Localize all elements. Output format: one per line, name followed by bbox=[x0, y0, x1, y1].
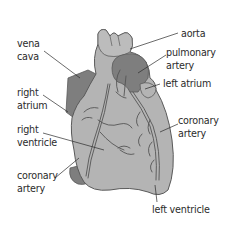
label-coronary-artery-left: coronary artery bbox=[17, 169, 58, 195]
label-left-atrium: left atrium bbox=[163, 77, 211, 90]
label-left-ventricle: left ventricle bbox=[152, 203, 210, 216]
label-line: vena bbox=[17, 37, 40, 50]
label-line: pulmonary bbox=[166, 46, 216, 59]
label-line: aorta bbox=[181, 27, 205, 40]
aorta-shape bbox=[98, 30, 133, 57]
label-line: cava bbox=[17, 50, 40, 63]
label-line: artery bbox=[166, 59, 216, 72]
label-right-ventricle: right ventricle bbox=[17, 123, 57, 149]
label-coronary-artery-right: coronary artery bbox=[178, 114, 219, 140]
label-aorta: aorta bbox=[181, 27, 205, 40]
label-line: artery bbox=[178, 127, 219, 140]
label-line: right bbox=[17, 123, 57, 136]
label-pulmonary-artery: pulmonary artery bbox=[166, 46, 216, 72]
label-line: ventricle bbox=[17, 136, 57, 149]
label-line: right bbox=[17, 86, 47, 99]
label-right-atrium: right atrium bbox=[17, 86, 47, 112]
label-line: artery bbox=[17, 182, 58, 195]
label-line: coronary bbox=[178, 114, 219, 127]
label-vena-cava: vena cava bbox=[17, 37, 40, 63]
label-line: left atrium bbox=[163, 77, 211, 90]
label-line: atrium bbox=[17, 99, 47, 112]
label-line: coronary bbox=[17, 169, 58, 182]
label-line: left ventricle bbox=[152, 203, 210, 216]
